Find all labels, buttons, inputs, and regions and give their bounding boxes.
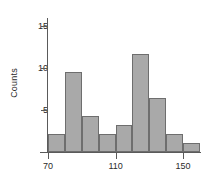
histogram-bar [116, 125, 133, 152]
x-tick-mark-110 [116, 153, 117, 159]
x-tick-mark-150 [183, 153, 184, 159]
x-axis-line [40, 152, 201, 153]
histogram-figure: Counts 15 10 5 70 110 1 [0, 0, 206, 184]
plot-area [48, 18, 200, 152]
histogram-bar [132, 54, 149, 152]
histogram-bar [149, 98, 166, 152]
y-axis-title: Counts [9, 53, 19, 113]
histogram-bar [65, 72, 82, 152]
x-tick-label-70: 70 [28, 161, 68, 171]
x-tick-mark-70 [48, 153, 49, 159]
x-tick-label-150: 150 [163, 161, 203, 171]
histogram-bar [166, 134, 183, 152]
histogram-bar [183, 143, 200, 152]
histogram-bar [48, 134, 65, 152]
histogram-bar [99, 134, 116, 152]
histogram-bar [82, 116, 99, 152]
x-tick-label-110: 110 [96, 161, 136, 171]
